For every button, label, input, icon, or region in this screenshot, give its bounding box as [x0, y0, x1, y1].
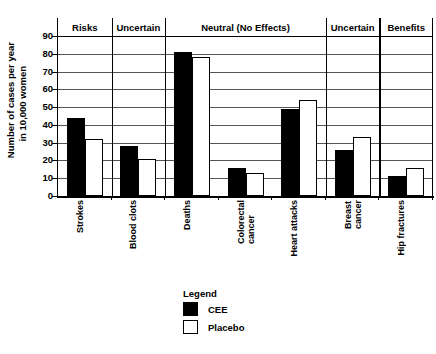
bar-cee-hip-fractures	[388, 176, 406, 196]
y-tick-mark	[52, 36, 57, 37]
legend-swatch-cee-icon	[183, 302, 198, 316]
bar-placebo-deaths	[192, 57, 210, 196]
x-tick-mark	[432, 196, 433, 200]
legend-swatch-placebo-icon	[183, 320, 198, 334]
bar-cee-strokes	[67, 118, 85, 196]
bar-placebo-colorectal-cancer	[246, 173, 264, 196]
y-tick-mark	[52, 89, 57, 90]
legend-label-cee: CEE	[208, 304, 228, 315]
y-tick-mark	[52, 196, 57, 197]
y-tick-mark	[52, 160, 57, 161]
bar-cee-deaths	[174, 52, 192, 196]
bar-cee-colorectal-cancer	[228, 168, 246, 196]
bar-cee-blood-clots	[120, 146, 138, 196]
header-divider	[58, 36, 433, 37]
x-tick-mark	[218, 196, 219, 200]
bar-placebo-breast-cancer	[353, 137, 371, 196]
y-tick-mark	[52, 143, 57, 144]
x-tick-mark	[164, 196, 165, 200]
legend-label-placebo: Placebo	[208, 322, 244, 333]
y-tick-mark	[52, 72, 57, 73]
group-header-risks: Risks	[58, 18, 112, 36]
group-separator	[326, 18, 327, 196]
group-header-benefits: Benefits	[379, 18, 433, 36]
legend-item-placebo: Placebo	[175, 320, 315, 334]
group-header-neutral-no-effects: Neutral (No Effects)	[165, 18, 326, 36]
x-tick-mark	[271, 196, 272, 200]
y-tick-mark	[52, 107, 57, 108]
y-axis-tick-labels: 9080706050403020100	[30, 0, 56, 220]
x-axis-label-deaths: Deaths	[182, 200, 192, 230]
gridline	[58, 143, 432, 144]
y-tick-mark	[52, 125, 57, 126]
group-separator	[379, 18, 380, 196]
legend-item-cee: CEE	[175, 302, 315, 316]
group-separator	[165, 18, 166, 196]
legend: Legend CEE Placebo	[175, 288, 315, 338]
gridline-major	[58, 72, 432, 73]
bar-placebo-blood-clots	[138, 159, 156, 196]
y-axis-title: Number of cases per year in 10,000 women	[0, 28, 34, 198]
bar-placebo-hip-fractures	[406, 168, 424, 196]
x-axis-label-heart-attacks: Heart attacks	[289, 200, 299, 257]
gridline	[58, 107, 432, 108]
chart-figure: Number of cases per year in 10,000 women…	[0, 0, 436, 354]
gridline	[58, 160, 432, 161]
group-header-uncertain: Uncertain	[112, 18, 166, 36]
y-tick-mark	[52, 178, 57, 179]
gridline-major	[58, 54, 432, 55]
y-axis-title-line-1: Number of cases per year	[6, 42, 16, 158]
gridline	[58, 125, 432, 126]
x-tick-mark	[111, 196, 112, 200]
plot-area: RisksUncertainNeutral (No Effects)Uncert…	[57, 18, 432, 196]
bar-placebo-strokes	[85, 139, 103, 196]
bar-cee-heart-attacks	[281, 109, 299, 196]
x-axis-label-hip-fractures: Hip fractures	[396, 200, 406, 256]
x-axis-label-blood-clots: Blood clots	[128, 200, 138, 249]
gridline	[58, 89, 432, 90]
x-tick-mark	[378, 196, 379, 200]
x-tick-mark	[325, 196, 326, 200]
plot-right-border	[432, 18, 433, 196]
x-axis-label-strokes: Strokes	[75, 200, 85, 233]
y-tick-mark	[52, 54, 57, 55]
bar-cee-breast-cancer	[335, 150, 353, 196]
x-axis-label-breast-cancer: Breast cancer	[343, 200, 363, 229]
group-separator	[112, 18, 113, 196]
group-header-uncertain: Uncertain	[326, 18, 380, 36]
bar-placebo-heart-attacks	[299, 100, 317, 196]
y-axis-title-line-2: in 10,000 women	[18, 66, 28, 142]
x-axis-label-colorectal-cancer: Colorectal cancer	[236, 200, 256, 244]
legend-title: Legend	[183, 288, 315, 299]
